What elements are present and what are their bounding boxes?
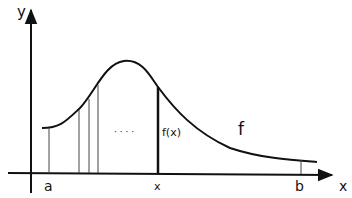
tick-label-a: a [44, 178, 53, 194]
y-axis-label: y [17, 3, 26, 21]
tick-label-b: b [295, 178, 304, 194]
curve-f [42, 61, 317, 162]
function-label: f [238, 119, 245, 139]
x-axis [8, 173, 332, 175]
x-axis-label: x [339, 178, 347, 194]
tick-label-x: x [154, 180, 161, 193]
ellipsis: · · · · [114, 127, 134, 137]
integral-diagram: y x a x b f f(x) · · · · [0, 0, 352, 198]
value-label: f(x) [162, 126, 181, 139]
